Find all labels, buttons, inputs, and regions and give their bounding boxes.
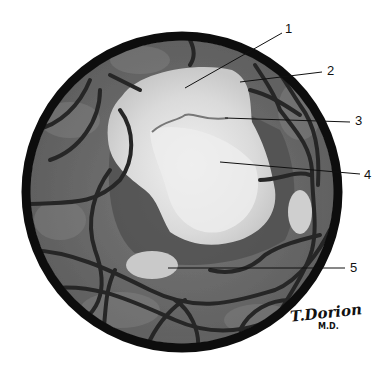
label-4: 4: [364, 168, 371, 181]
label-2: 2: [327, 64, 334, 77]
artist-credential: M.D.: [318, 322, 339, 331]
label-1: 1: [285, 22, 292, 35]
label-3: 3: [355, 114, 362, 127]
label-5: 5: [350, 261, 357, 274]
fundus-figure: 1 2 3 4 5 T.Dorion M.D.: [0, 0, 392, 370]
